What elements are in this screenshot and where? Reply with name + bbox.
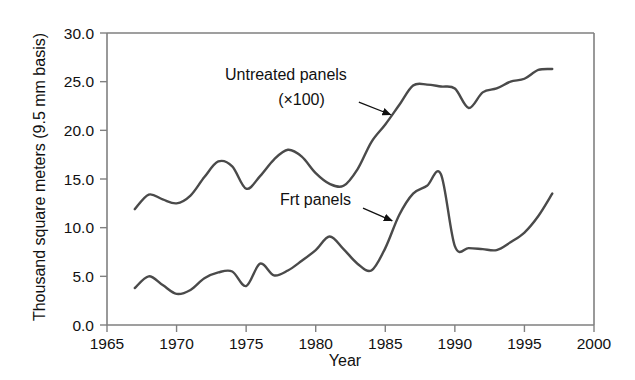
x-tick-label-5: 1990 bbox=[438, 335, 473, 352]
annotation-arrow-1 bbox=[363, 208, 392, 221]
x-tick-label-4: 1985 bbox=[368, 335, 402, 352]
chart-figure: 19651970197519801985199019952000 0.05.01… bbox=[0, 0, 635, 380]
chart-series-lines bbox=[135, 69, 552, 294]
y-tick-label-1: 5.0 bbox=[72, 268, 94, 285]
y-tick-label-4: 20.0 bbox=[64, 122, 95, 139]
x-tick-label-6: 1995 bbox=[507, 335, 541, 352]
y-tick-label-3: 15.0 bbox=[64, 171, 95, 188]
series-line-0 bbox=[135, 69, 552, 209]
y-axis-label: Thousand square meters (9.5 mm basis) bbox=[31, 32, 49, 322]
line-chart-svg: 19651970197519801985199019952000 0.05.01… bbox=[0, 0, 635, 380]
x-tick-label-3: 1980 bbox=[298, 335, 333, 352]
y-tick-label-2: 10.0 bbox=[64, 219, 95, 236]
annotation-arrow-0 bbox=[359, 102, 391, 115]
y-tick-label-0: 0.0 bbox=[72, 317, 94, 334]
annotation-label-0: Untreated panels bbox=[225, 66, 347, 83]
x-tick-label-1: 1970 bbox=[159, 335, 194, 352]
y-tick-label-5: 25.0 bbox=[64, 73, 95, 90]
x-axis-label: Year bbox=[300, 352, 390, 370]
x-tick-label-0: 1965 bbox=[90, 335, 124, 352]
y-tick-label-6: 30.0 bbox=[64, 25, 95, 42]
series-line-1 bbox=[135, 171, 552, 294]
x-tick-label-2: 1975 bbox=[229, 335, 263, 352]
x-tick-label-7: 2000 bbox=[577, 335, 612, 352]
annotation-label-1: Frt panels bbox=[280, 191, 351, 208]
annotation-sublabel-0: (×100) bbox=[278, 91, 325, 108]
y-tick-labels: 0.05.010.015.020.025.030.0 bbox=[64, 25, 95, 334]
x-tick-labels: 19651970197519801985199019952000 bbox=[90, 335, 612, 352]
chart-annotations: Untreated panels(×100)Frt panels bbox=[225, 66, 392, 221]
